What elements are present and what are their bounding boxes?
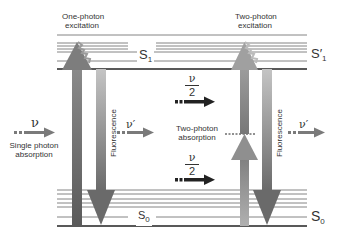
jablonski-diagram: One-photon excitation Two-photon excitat… bbox=[0, 0, 341, 238]
excited-state-levels bbox=[57, 35, 307, 61]
s1-prime-label: S′1 bbox=[311, 47, 327, 65]
title-line: Two-photon bbox=[235, 12, 275, 21]
title-line: excitation bbox=[62, 21, 102, 30]
label-line: Single photon bbox=[8, 141, 60, 150]
state-symbol: S′ bbox=[311, 46, 322, 61]
half-photon-fraction-bottom: ν 2 bbox=[185, 152, 199, 177]
one-photon-excitation-arrow bbox=[62, 42, 92, 226]
emitted-photon-nu-left: ν′ bbox=[126, 118, 135, 131]
s0-label-left: S0 bbox=[136, 209, 152, 226]
incident-photon-nu: ν bbox=[31, 116, 39, 129]
denominator: 2 bbox=[185, 86, 199, 98]
title-line: excitation bbox=[235, 21, 275, 30]
s0-label-right: S0 bbox=[311, 210, 325, 228]
two-photon-title: Two-photon excitation bbox=[235, 12, 275, 30]
state-subscript: 1 bbox=[148, 55, 152, 64]
fluorescence-label-right: Fluorescence bbox=[275, 109, 284, 157]
label-line: absorption bbox=[172, 133, 222, 142]
title-line: One-photon bbox=[62, 12, 102, 21]
fluorescence-label-left: Fluorescence bbox=[109, 109, 118, 157]
state-subscript: 1 bbox=[322, 54, 326, 63]
emitted-photon-arrow-left bbox=[117, 128, 154, 138]
two-photon-lower-arrow bbox=[231, 134, 258, 226]
two-photon-absorption-label: Two-photon absorption bbox=[172, 124, 222, 142]
diagram-graphics bbox=[0, 0, 341, 238]
one-photon-title: One-photon excitation bbox=[62, 12, 102, 30]
state-subscript: 0 bbox=[320, 217, 324, 226]
half-photon-fraction-top: ν 2 bbox=[185, 73, 199, 98]
s1-label: S1 bbox=[137, 48, 154, 66]
denominator: 2 bbox=[185, 165, 199, 177]
numerator: ν bbox=[185, 73, 199, 86]
half-photon-arrow-top bbox=[175, 97, 215, 108]
label-line: Two-photon bbox=[172, 124, 222, 133]
emitted-photon-nu-right: ν′ bbox=[299, 118, 308, 131]
single-photon-absorption-label: Single photon absorption bbox=[8, 141, 60, 159]
state-symbol: S bbox=[311, 208, 320, 224]
state-symbol: S bbox=[139, 47, 148, 62]
numerator: ν bbox=[185, 152, 199, 165]
label-line: absorption bbox=[8, 150, 60, 159]
state-subscript: 0 bbox=[145, 215, 149, 224]
